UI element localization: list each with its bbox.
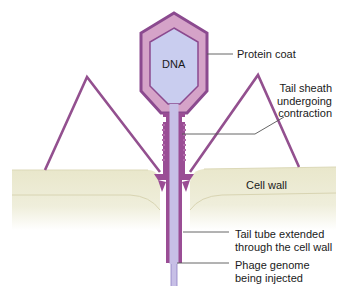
label-protein-coat: Protein coat [237,48,296,61]
label-cell-wall: Cell wall [246,179,287,192]
label-tail-tube: Tail tube extended through the cell wall [235,228,332,253]
label-tail-sheath: Tail sheath undergoing contraction [277,82,332,120]
dna-label: DNA [162,58,185,70]
tail-tube [166,104,182,286]
label-phage-genome: Phage genome being injected [235,259,310,284]
